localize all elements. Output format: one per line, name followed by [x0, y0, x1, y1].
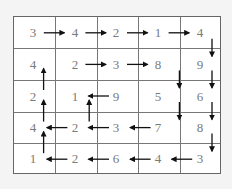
- number-grid: 3 4 2 1 4 4 2 3 8 9 2 1 9 5 6 4 2 3 7 8 …: [13, 16, 221, 174]
- arrow-layer: [14, 17, 222, 175]
